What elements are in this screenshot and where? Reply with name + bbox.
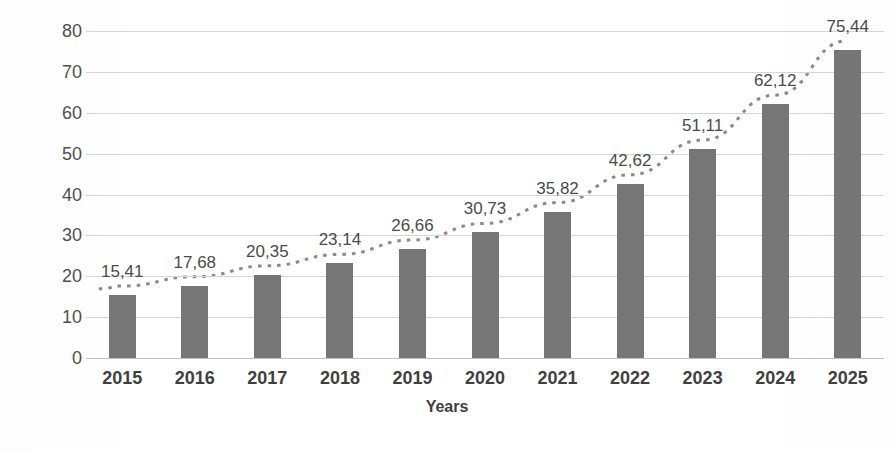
x-axis-tick-label: 2023: [663, 368, 743, 389]
bar-data-label: 20,35: [227, 242, 307, 262]
y-axis-tick-label: 80: [36, 22, 82, 40]
x-axis-tick-label: 2017: [227, 368, 307, 389]
gridline: [86, 358, 884, 359]
x-axis-tick-label: 2019: [372, 368, 452, 389]
bar[interactable]: [399, 249, 426, 358]
bar-data-label: 42,62: [590, 151, 670, 171]
y-axis-tick-label: 10: [36, 308, 82, 326]
bar-chart: Number of devices (billions) 01020304050…: [0, 0, 894, 451]
y-axis-tick-label: 60: [36, 104, 82, 122]
bar[interactable]: [472, 232, 499, 358]
bar-data-label: 75,44: [808, 17, 888, 37]
y-axis-tick-labels: 01020304050607080: [30, 0, 82, 451]
bar-data-label: 26,66: [372, 216, 452, 236]
bar[interactable]: [181, 286, 208, 358]
x-axis-tick-label: 2020: [445, 368, 525, 389]
gridline: [86, 31, 884, 32]
x-axis-tick-label: 2016: [155, 368, 235, 389]
bar[interactable]: [544, 212, 571, 358]
y-axis-tick-label: 50: [36, 145, 82, 163]
x-axis-tick-label: 2022: [590, 368, 670, 389]
bar-data-label: 15,41: [82, 262, 162, 282]
bar[interactable]: [689, 149, 716, 358]
x-axis-title: Years: [0, 398, 894, 416]
bar[interactable]: [617, 184, 644, 358]
bar-data-label: 62,12: [735, 71, 815, 91]
x-axis-tick-label: 2018: [300, 368, 380, 389]
x-axis-tick-label: 2025: [808, 368, 888, 389]
bar[interactable]: [762, 104, 789, 358]
bar[interactable]: [834, 50, 861, 358]
bar-data-label: 30,73: [445, 199, 525, 219]
bar-data-label: 23,14: [300, 230, 380, 250]
x-axis-tick-label: 2021: [518, 368, 598, 389]
bar-data-label: 51,11: [663, 116, 743, 136]
y-axis-tick-label: 30: [36, 226, 82, 244]
x-axis-tick-label: 2015: [82, 368, 162, 389]
bar[interactable]: [109, 295, 136, 358]
bar-data-label: 35,82: [518, 179, 598, 199]
bar[interactable]: [254, 275, 281, 358]
y-axis-tick-label: 0: [36, 349, 82, 367]
bar[interactable]: [326, 263, 353, 358]
x-axis-tick-label: 2024: [735, 368, 815, 389]
y-axis-tick-label: 40: [36, 186, 82, 204]
y-axis-tick-label: 20: [36, 267, 82, 285]
y-axis-tick-label: 70: [36, 63, 82, 81]
bar-data-label: 17,68: [155, 253, 235, 273]
